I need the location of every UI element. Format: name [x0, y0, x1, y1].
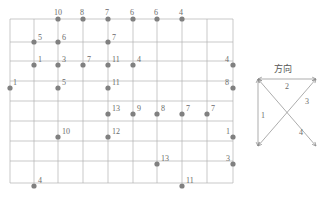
node-label: 7 [87, 55, 91, 64]
node-label: 12 [112, 127, 120, 136]
arrow-vertical [256, 79, 260, 146]
grid-node [230, 85, 235, 90]
node-label: 10 [54, 8, 62, 17]
direction-legend: 方向 1234 [256, 63, 316, 146]
node-label: 4 [38, 176, 42, 185]
grid-node [55, 16, 60, 21]
node-label: 1 [13, 78, 17, 87]
grid-lines [10, 19, 233, 183]
grid-node [7, 85, 12, 90]
grid-node [31, 62, 36, 67]
arrow-horizontal-label: 2 [285, 82, 289, 91]
grid-node [55, 85, 60, 90]
grid-node [230, 161, 235, 166]
grid-node [154, 111, 159, 116]
node-label: 4 [137, 55, 141, 64]
node-label: 10 [62, 127, 70, 136]
grid-node [80, 16, 85, 21]
node-labels: 108766456713711441511813987710121133411 [13, 8, 230, 185]
grid-node [154, 16, 159, 21]
node-label: 13 [112, 104, 120, 113]
node-label: 4 [179, 8, 183, 17]
node-label: 8 [225, 78, 229, 87]
grid-node [130, 62, 135, 67]
grid-node [105, 39, 110, 44]
grid-node [179, 111, 184, 116]
grid-node [55, 62, 60, 67]
grid-node [230, 62, 235, 67]
grid-node [105, 111, 110, 116]
legend-arrow-labels: 1234 [261, 82, 309, 137]
grid-node [130, 111, 135, 116]
node-label: 6 [154, 8, 158, 17]
arrow-horizontal [258, 77, 316, 81]
arrow-vertical-label: 1 [261, 111, 265, 120]
grid-node [31, 183, 36, 188]
node-label: 3 [226, 154, 230, 163]
grid-node [55, 134, 60, 139]
node-label: 6 [130, 8, 134, 17]
legend-title: 方向 [274, 63, 292, 74]
grid-node [130, 16, 135, 21]
arrow-diag-down-label: 4 [299, 128, 303, 137]
grid-node [105, 62, 110, 67]
node-label: 7 [211, 104, 215, 113]
grid-node [105, 85, 110, 90]
node-label: 3 [62, 55, 66, 64]
grid-node [80, 62, 85, 67]
node-label: 5 [38, 33, 42, 42]
node-label: 8 [161, 104, 165, 113]
grid-node [230, 134, 235, 139]
grid-node [179, 16, 184, 21]
network-grid-figure: 108766456713711441511813987710121133411 … [0, 0, 326, 201]
arrow-diag-up-label: 3 [305, 97, 309, 106]
node-label: 11 [186, 176, 194, 185]
grid-node [31, 39, 36, 44]
grid-node [154, 161, 159, 166]
node-label: 1 [38, 55, 42, 64]
grid-node [55, 39, 60, 44]
figure-canvas: 108766456713711441511813987710121133411 … [0, 0, 326, 201]
grid-node [179, 183, 184, 188]
node-label: 11 [112, 55, 120, 64]
grid-node [105, 134, 110, 139]
grid-node [204, 111, 209, 116]
node-label: 7 [186, 104, 190, 113]
node-label: 6 [62, 33, 66, 42]
node-label: 5 [62, 78, 66, 87]
node-label: 13 [161, 154, 169, 163]
node-label: 1 [226, 127, 230, 136]
grid-node [105, 16, 110, 21]
node-label: 4 [225, 55, 229, 64]
node-label: 11 [112, 78, 120, 87]
node-label: 9 [137, 104, 141, 113]
node-label: 7 [105, 8, 109, 17]
node-label: 8 [80, 8, 84, 17]
node-label: 7 [112, 33, 116, 42]
